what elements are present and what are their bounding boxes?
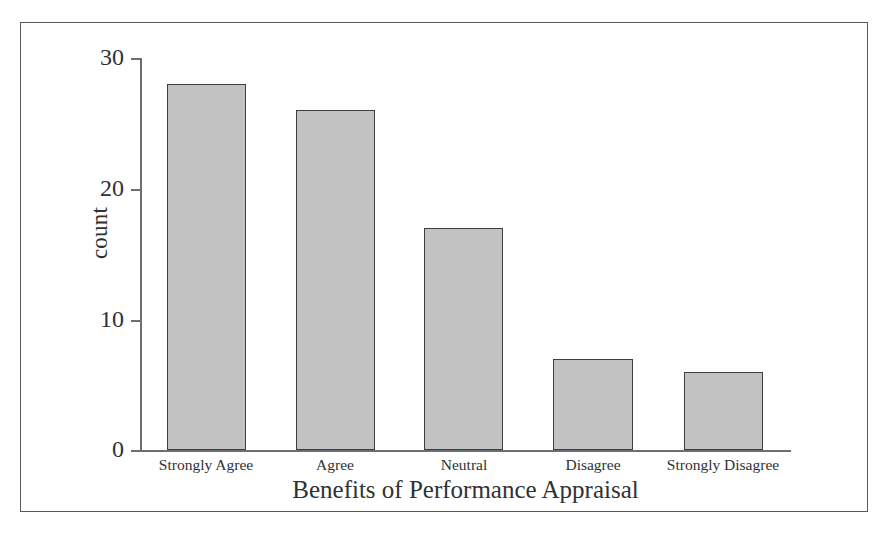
x-tick-label-agree: Agree	[275, 456, 395, 473]
plot-area: 30 20 10 0 count Strongly Agree Agree Ne…	[0, 0, 888, 535]
y-tick-label-0: 0	[84, 437, 124, 461]
y-tick-mark-20	[131, 189, 140, 191]
bar-strongly-agree	[167, 84, 246, 450]
y-axis-title: count	[87, 173, 113, 293]
x-tick-label-strongly-disagree: Strongly Disagree	[648, 456, 798, 473]
x-axis-title: Benefits of Performance Appraisal	[140, 477, 791, 503]
y-tick-label-30: 30	[84, 45, 124, 69]
bar-agree	[296, 110, 375, 450]
x-tick-label-disagree: Disagree	[533, 456, 653, 473]
y-axis-line	[140, 58, 142, 451]
y-tick-mark-0	[131, 450, 140, 452]
x-tick-label-neutral: Neutral	[404, 456, 524, 473]
y-tick-mark-30	[131, 58, 140, 60]
y-tick-mark-10	[131, 320, 140, 322]
figure-container: 30 20 10 0 count Strongly Agree Agree Ne…	[0, 0, 888, 535]
x-tick-label-strongly-agree: Strongly Agree	[146, 456, 266, 473]
x-axis-line	[140, 450, 791, 452]
bar-strongly-disagree	[684, 372, 763, 450]
bar-neutral	[424, 228, 503, 450]
y-tick-label-10: 10	[84, 307, 124, 331]
bar-disagree	[553, 359, 633, 450]
